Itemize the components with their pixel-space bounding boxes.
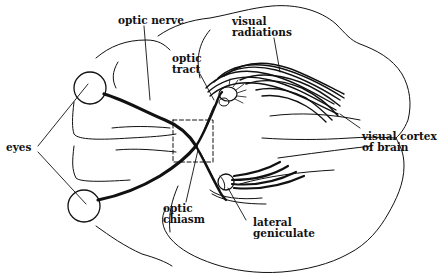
optic-tract-upper [196,92,222,146]
label-optic-nerve: optic nerve [118,15,184,26]
leader-optic-tract [200,74,214,100]
leader-optic-chiasm [186,150,198,202]
leader-lateral-geniculate [228,188,246,220]
leader-optic-nerve [144,26,150,100]
label-visual-radiations: visual radiations [232,16,292,38]
label-eyes: eyes [6,142,31,153]
optic-nerve-lower [98,146,196,200]
frontal-lobe-upper [96,40,170,58]
eye-upper [74,72,106,104]
visual-radiations-upper [206,63,344,122]
frontal-lobe-lower [96,226,172,266]
label-lateral-geniculate: lateral geniculate [253,217,315,239]
label-optic-tract: optic tract [172,53,202,75]
label-optic-chiasm: optic chiasm [163,203,205,225]
eye-lower [68,190,100,222]
label-visual-cortex: visual cortex of brain [362,131,437,153]
leader-visual-cortex [340,114,360,128]
visual-radiations-lower [232,162,304,189]
leader-eyes-upper [38,84,88,146]
leader-eyes-lower [38,152,86,204]
